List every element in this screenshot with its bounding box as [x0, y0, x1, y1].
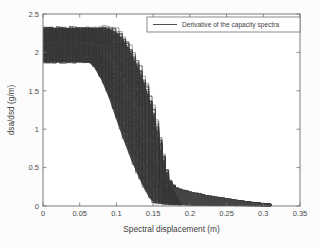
x-tick-label: 0.15 — [146, 209, 161, 218]
x-tick-label: 0.3 — [258, 209, 268, 218]
x-tick-label: 0 — [41, 209, 45, 218]
y-tick-label: 1 — [35, 125, 39, 134]
y-axis-title: dsa/dsd (g/m) — [6, 84, 16, 135]
legend[interactable]: Derivative of the capacity spectra — [147, 17, 300, 32]
x-tick-label: 0.2 — [185, 209, 195, 218]
y-tick-label: 2 — [35, 48, 39, 57]
x-tick-label: 0.35 — [293, 209, 308, 218]
y-tick-label: 2.5 — [29, 10, 39, 19]
x-axis-title: Spectral displacement (m) — [123, 224, 220, 234]
y-tick-label: 0 — [35, 202, 39, 211]
x-tick-label: 0.05 — [72, 209, 87, 218]
matlab-figure-window: 00.050.10.150.20.250.30.35 00.511.522.5 … — [0, 0, 319, 247]
legend-entry-label: Derivative of the capacity spectra — [182, 21, 279, 29]
x-tick-label: 0.1 — [111, 209, 121, 218]
chart-canvas: 00.050.10.150.20.250.30.35 00.511.522.5 … — [0, 0, 319, 247]
y-tick-label: 0.5 — [29, 163, 39, 172]
x-tick-label: 0.25 — [219, 209, 234, 218]
y-tick-label: 1.5 — [29, 87, 39, 96]
